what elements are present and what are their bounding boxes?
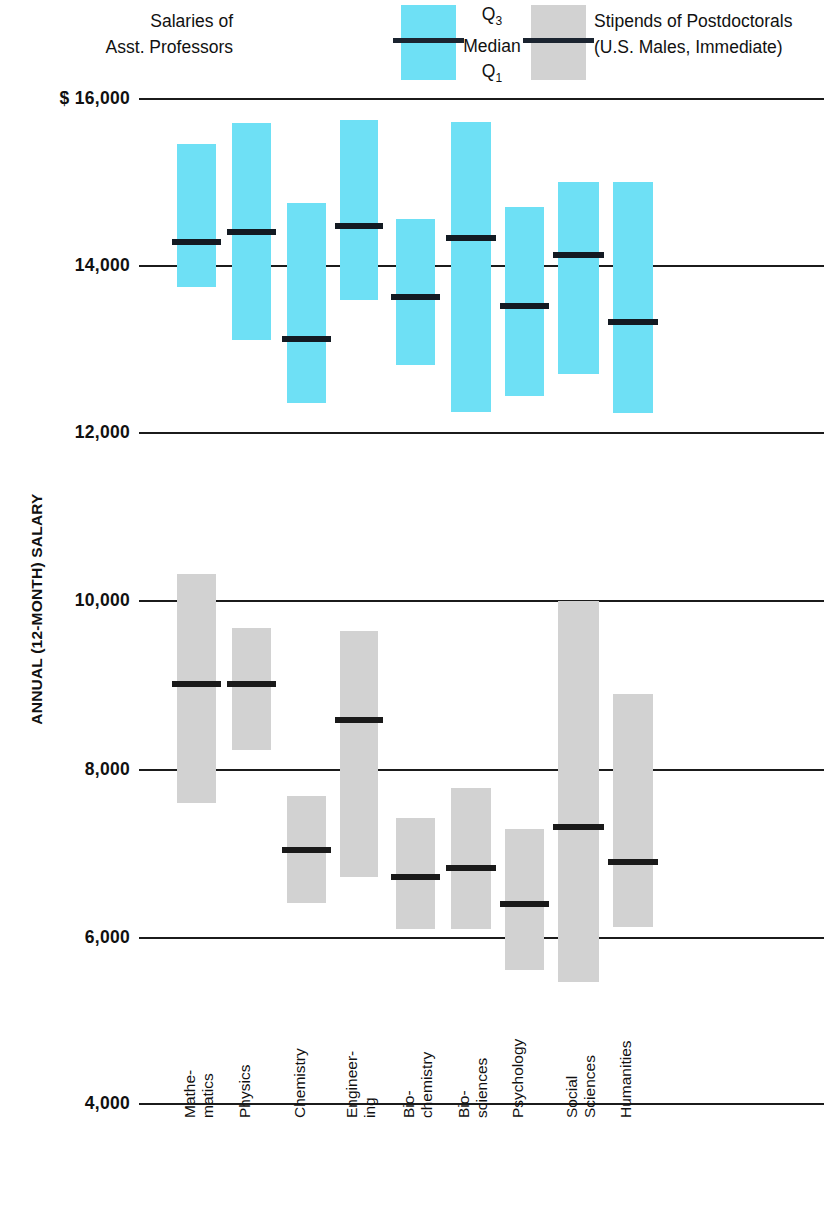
median-line — [335, 223, 383, 229]
bar-stipends-3 — [340, 631, 378, 877]
median-line — [446, 865, 496, 871]
median-line — [391, 874, 440, 880]
chart-plot-area: ANNUAL (12-MONTH) SALARY $ 16,000 14,000… — [0, 0, 824, 1230]
bar-stipends-1 — [232, 628, 271, 749]
bar-salaries-7 — [558, 182, 599, 375]
bar-salaries-1 — [232, 123, 271, 340]
gridline-8000 — [139, 769, 824, 771]
median-line — [335, 717, 383, 723]
median-line — [282, 847, 331, 853]
category-label-7: Social Sciences — [563, 968, 599, 1118]
median-line — [608, 319, 658, 325]
median-line — [282, 336, 331, 342]
ytick-label-12000: 12,000 — [75, 422, 130, 443]
category-label-3: Engineer- ing — [343, 968, 379, 1118]
median-line — [172, 681, 221, 687]
ytick-label-6000: 6,000 — [85, 927, 130, 948]
ytick-label-10000: 10,000 — [75, 590, 130, 611]
median-line — [446, 235, 496, 241]
median-line — [500, 303, 549, 309]
category-label-5: Bio- sciences — [455, 968, 491, 1118]
bar-stipends-0 — [177, 574, 216, 803]
y-axis-title: ANNUAL (12-MONTH) SALARY — [28, 449, 46, 769]
bar-stipends-4 — [396, 818, 435, 929]
bar-stipends-7 — [558, 601, 599, 983]
median-line — [227, 681, 276, 687]
bar-salaries-8 — [613, 182, 653, 413]
bar-salaries-5 — [451, 122, 491, 412]
median-line — [227, 229, 276, 235]
category-label-1: Physics — [236, 968, 254, 1118]
bar-salaries-0 — [177, 144, 216, 287]
median-line — [608, 859, 658, 865]
ytick-label-14000: 14,000 — [75, 255, 130, 276]
bar-stipends-6 — [505, 829, 544, 970]
category-label-8: Humanities — [617, 968, 635, 1118]
gridline-16000 — [139, 98, 824, 100]
bar-stipends-5 — [451, 788, 491, 929]
median-line — [500, 901, 549, 907]
median-line — [553, 252, 604, 258]
bar-salaries-3 — [340, 120, 378, 300]
gridline-6000 — [139, 937, 824, 939]
median-line — [553, 824, 604, 830]
gridline-12000 — [139, 432, 824, 434]
category-label-6: Psychology — [509, 968, 527, 1118]
category-label-0: Mathe- matics — [181, 968, 217, 1118]
bar-stipends-2 — [287, 796, 326, 903]
category-label-4: Bio- chemistry — [400, 968, 436, 1118]
median-line — [172, 239, 221, 245]
bar-salaries-4 — [396, 219, 435, 365]
bar-salaries-2 — [287, 203, 326, 403]
ytick-label-8000: 8,000 — [85, 759, 130, 780]
median-line — [391, 294, 440, 300]
bar-stipends-8 — [613, 694, 653, 927]
gridline-10000 — [139, 600, 824, 602]
ytick-label-4000: 4,000 — [85, 1093, 130, 1114]
ytick-label-16000: $ 16,000 — [59, 88, 130, 109]
bar-salaries-6 — [505, 207, 544, 396]
category-label-2: Chemistry — [291, 968, 309, 1118]
